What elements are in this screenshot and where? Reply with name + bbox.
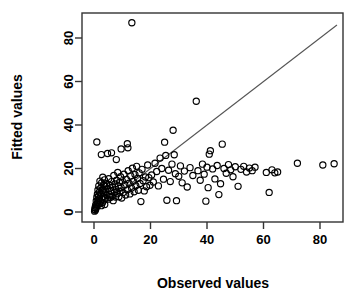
- scatter-plot-figure: 020406080 020406080 Observed values Fitt…: [0, 0, 354, 298]
- data-point: [94, 139, 100, 145]
- x-axis-ticks: [94, 222, 320, 229]
- data-point: [294, 160, 300, 166]
- data-point: [159, 165, 165, 171]
- data-point: [205, 185, 211, 191]
- data-point: [164, 197, 170, 203]
- data-point: [184, 184, 190, 190]
- data-point: [125, 145, 131, 151]
- y-axis-title: Fitted values: [9, 74, 25, 160]
- identity-reference-line: [94, 25, 337, 212]
- x-axis-tick-labels: 020406080: [90, 232, 327, 247]
- data-point: [228, 167, 234, 173]
- y-tick-label: 40: [61, 118, 76, 132]
- data-point: [113, 156, 119, 162]
- y-tick-label: 20: [61, 161, 76, 175]
- data-point: [173, 198, 179, 204]
- data-point: [138, 198, 144, 204]
- x-tick-label: 60: [256, 232, 270, 247]
- data-point: [320, 162, 326, 168]
- data-point: [118, 146, 124, 152]
- data-point: [235, 183, 241, 189]
- data-point: [193, 98, 199, 104]
- data-point: [214, 162, 220, 168]
- data-point: [212, 176, 218, 182]
- data-point: [98, 151, 104, 157]
- y-tick-label: 60: [61, 74, 76, 88]
- data-point: [203, 198, 209, 204]
- data-point: [181, 168, 187, 174]
- data-point: [108, 150, 114, 156]
- y-tick-label: 0: [61, 208, 76, 215]
- data-point: [201, 171, 207, 177]
- y-axis-ticks: [75, 38, 82, 212]
- y-axis-tick-labels: 020406080: [61, 31, 76, 216]
- data-point: [155, 183, 161, 189]
- x-axis-title: Observed values: [157, 275, 269, 291]
- data-point: [217, 181, 223, 187]
- x-tick-label: 80: [313, 232, 327, 247]
- data-point: [219, 141, 225, 147]
- data-point: [171, 152, 177, 158]
- data-point: [169, 161, 175, 167]
- data-point: [195, 168, 201, 174]
- y-tick-label: 80: [61, 31, 76, 45]
- data-point: [190, 172, 196, 178]
- data-point: [331, 161, 337, 167]
- data-point: [230, 174, 236, 180]
- scatter-points: [91, 20, 337, 215]
- data-point: [187, 165, 193, 171]
- data-point: [167, 178, 173, 184]
- x-tick-label: 40: [200, 232, 214, 247]
- data-point: [160, 176, 166, 182]
- data-point: [216, 192, 222, 198]
- data-point: [197, 177, 203, 183]
- data-point: [145, 162, 151, 168]
- identity-line: [94, 25, 337, 212]
- plot-canvas: 020406080 020406080 Observed values Fitt…: [0, 0, 354, 298]
- data-point: [129, 20, 135, 26]
- data-point: [170, 127, 176, 133]
- x-tick-label: 20: [143, 232, 157, 247]
- x-tick-label: 0: [90, 232, 97, 247]
- data-point: [266, 189, 272, 195]
- data-point: [162, 139, 168, 145]
- data-point: [165, 167, 171, 173]
- data-point: [199, 161, 205, 167]
